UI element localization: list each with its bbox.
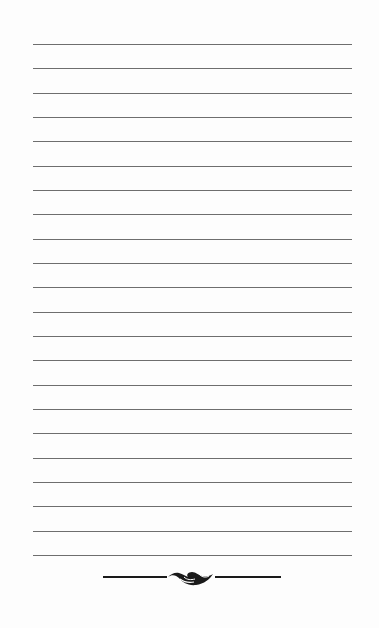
ruled-line [33,360,352,361]
ruled-line [33,287,352,288]
ruled-line [33,336,352,337]
ruled-line [33,263,352,264]
flourish-right-rule [215,576,281,578]
ruled-line [33,214,352,215]
ruled-line [33,117,352,118]
ruled-line [33,44,352,45]
bottom-flourish-ornament [100,566,284,590]
ruled-line [33,93,352,94]
ruled-line [33,458,352,459]
notepaper-page [0,0,379,628]
ruled-line [33,482,352,483]
ruled-line [33,312,352,313]
ruled-line [33,506,352,507]
ruled-line [33,555,352,556]
ruled-line [33,531,352,532]
flourish-left-rule [103,576,167,578]
ruled-line [33,239,352,240]
ruled-line [33,68,352,69]
ruled-line [33,190,352,191]
ruled-line [33,409,352,410]
ruled-line [33,433,352,434]
ruled-line [33,141,352,142]
ruled-line [33,166,352,167]
scroll-swirl-icon [166,568,216,590]
ruled-line [33,385,352,386]
